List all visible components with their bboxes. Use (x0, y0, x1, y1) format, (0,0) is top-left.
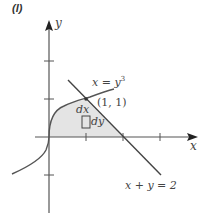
cubic-exponent: 3 (121, 75, 125, 83)
y-axis-label: y (54, 16, 62, 30)
intersection-point (84, 97, 88, 101)
intersection-label: (1, 1) (97, 96, 127, 109)
diagram-figure: (l) y x x = y3 (1, 1) dx dy x + y = 2 (0, 0, 208, 223)
x-axis-label: x (190, 139, 197, 153)
cubic-curve-label-text: x = y (92, 76, 121, 89)
panel-label: (l) (12, 2, 23, 14)
diagram-canvas: (l) y x x = y3 (1, 1) dx dy x + y = 2 (0, 0, 208, 223)
cubic-curve-label: x = y3 (92, 75, 125, 89)
dy-label: dy (91, 115, 105, 128)
dx-label: dx (76, 103, 90, 116)
line-label: x + y = 2 (125, 179, 177, 192)
